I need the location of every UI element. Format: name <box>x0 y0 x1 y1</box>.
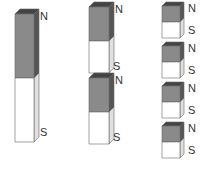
magnet-side-north <box>109 73 114 112</box>
magnet-side-south <box>180 98 184 118</box>
magnet-south-pole <box>162 22 180 38</box>
magnet-south-pole <box>15 78 34 142</box>
north-label: N <box>40 11 48 22</box>
south-label: S <box>40 127 47 138</box>
north-label: N <box>188 123 196 134</box>
magnet-side-north <box>109 2 114 41</box>
magnet-south-pole <box>162 62 180 78</box>
magnet-north-pole <box>162 86 180 102</box>
magnet-side-south <box>180 18 184 38</box>
north-label: N <box>188 43 196 54</box>
magnet-north-pole <box>89 78 109 112</box>
magnet-north-pole <box>162 6 180 22</box>
north-label: N <box>115 75 123 86</box>
north-label: N <box>188 83 196 94</box>
south-label: S <box>188 65 195 76</box>
magnet-north-pole <box>162 126 180 142</box>
magnet-south-pole <box>162 142 180 158</box>
north-label: N <box>188 3 196 14</box>
south-label: S <box>188 105 195 116</box>
south-label: S <box>188 145 195 156</box>
magnet-side-south <box>34 73 39 142</box>
magnet-side-south <box>180 138 184 158</box>
magnet-side-south <box>180 58 184 78</box>
magnet-north-pole <box>15 14 34 78</box>
south-label: S <box>113 61 120 72</box>
magnet-north-pole <box>89 7 109 41</box>
south-label: S <box>113 132 120 143</box>
magnet-south-pole <box>89 112 109 144</box>
magnet-south-pole <box>89 41 109 73</box>
south-label: S <box>188 25 195 36</box>
magnet-north-pole <box>162 46 180 62</box>
magnet-south-pole <box>162 102 180 118</box>
north-label: N <box>115 4 123 15</box>
magnet-side-north <box>34 9 39 78</box>
